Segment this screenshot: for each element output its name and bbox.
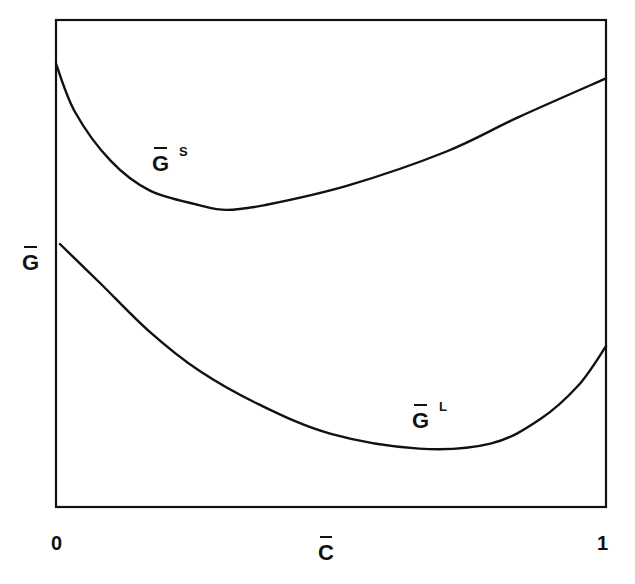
liquid-curve-label: G L — [412, 410, 429, 432]
liquid-label-main: G — [412, 410, 429, 432]
liquid-curve-gl — [60, 244, 606, 449]
x-tick-0: 0 — [51, 533, 62, 553]
liquid-label-sup: L — [439, 400, 447, 413]
solid-curve-label: G S — [152, 153, 169, 175]
solid-label-main: G — [152, 153, 169, 175]
free-energy-chart: G S G L G 0 1 C — [0, 0, 635, 584]
solid-label-sup: S — [179, 145, 188, 158]
x-tick-1: 1 — [597, 533, 608, 553]
plot-area — [0, 0, 635, 584]
solid-curve-gs — [56, 64, 606, 210]
y-axis-label: G — [22, 252, 39, 274]
x-axis-label: C — [318, 542, 334, 564]
